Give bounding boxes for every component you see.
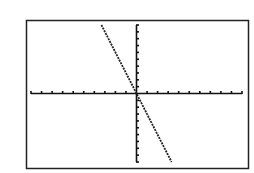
graph-screen — [0, 0, 254, 173]
